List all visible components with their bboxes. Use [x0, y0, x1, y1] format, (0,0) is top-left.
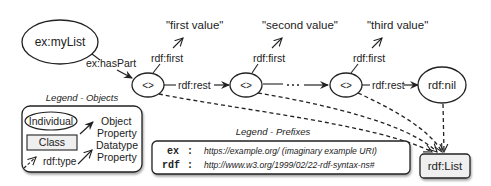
legend-objects: Legend - Objects Individual Class rdf:ty… [22, 92, 142, 172]
node-blank-3[interactable]: <> [330, 73, 362, 97]
literal-second-value: "second value" [262, 19, 338, 31]
prefix-name: rdf [162, 160, 180, 171]
legend-rdf-type-label: rdf:type [43, 156, 77, 167]
edge-has-part: ex:hasPart [86, 54, 136, 78]
legend-object-property-label-1: Object [101, 115, 131, 127]
legend-individual-label: Individual [29, 115, 73, 127]
prefix-uri: https://example.org/ (imaginary example … [204, 146, 377, 156]
legend-prefixes: Legend - Prefixes ex : https://example.o… [152, 126, 410, 174]
edge-first-3: rdf:first [351, 38, 385, 73]
literal-third-value: "third value" [367, 19, 428, 31]
node-my-list-label: ex:myList [35, 35, 86, 49]
edge-rest-1: rdf:rest [164, 79, 229, 91]
edge-first-2-label: rdf:first [253, 52, 285, 64]
prefix-uri: http://www.w3.org/1999/02/22-rdf-syntax-… [204, 160, 375, 170]
literal-first-value: "first value" [166, 19, 223, 31]
node-blank-2-label: <> [240, 80, 252, 91]
edge-has-part-label: ex:hasPart [86, 57, 136, 69]
legend-prefixes-title: Legend - Prefixes [236, 126, 311, 137]
edge-rest-2-elided [263, 84, 328, 85]
edge-first-2: rdf:first [252, 38, 285, 73]
edge-rest-1-label: rdf:rest [178, 79, 211, 91]
node-rdf-nil[interactable]: rdf:nil [418, 67, 466, 103]
edge-rest-3: rdf:rest [362, 79, 418, 91]
edge-first-3-label: rdf:first [353, 52, 385, 64]
node-blank-1-label: <> [142, 80, 154, 91]
node-rdf-list[interactable]: rdf:List [420, 154, 470, 178]
edge-rest-3-label: rdf:rest [372, 79, 405, 91]
prefix-separator: : [187, 160, 193, 171]
node-rdf-nil-label: rdf:nil [428, 79, 456, 91]
legend-class-label: Class [39, 136, 65, 148]
node-rdf-list-label: rdf:List [428, 160, 463, 172]
edge-first-1-label: rdf:first [151, 52, 183, 64]
prefix-name: ex [167, 146, 179, 157]
node-blank-3-label: <> [340, 80, 352, 91]
legend-datatype-property-label-2: Property [97, 151, 137, 163]
legend-object-property-label-2: Property [97, 127, 137, 139]
prefix-separator: : [187, 146, 193, 157]
legend-objects-title: Legend - Objects [46, 92, 119, 103]
edge-first-1: rdf:first [151, 38, 183, 73]
legend-datatype-property-label-1: Datatype [96, 139, 138, 151]
node-blank-2[interactable]: <> [230, 73, 262, 97]
rdf-list-diagram: ex:myList ex:hasPart <> rdf:first "first… [0, 0, 491, 186]
